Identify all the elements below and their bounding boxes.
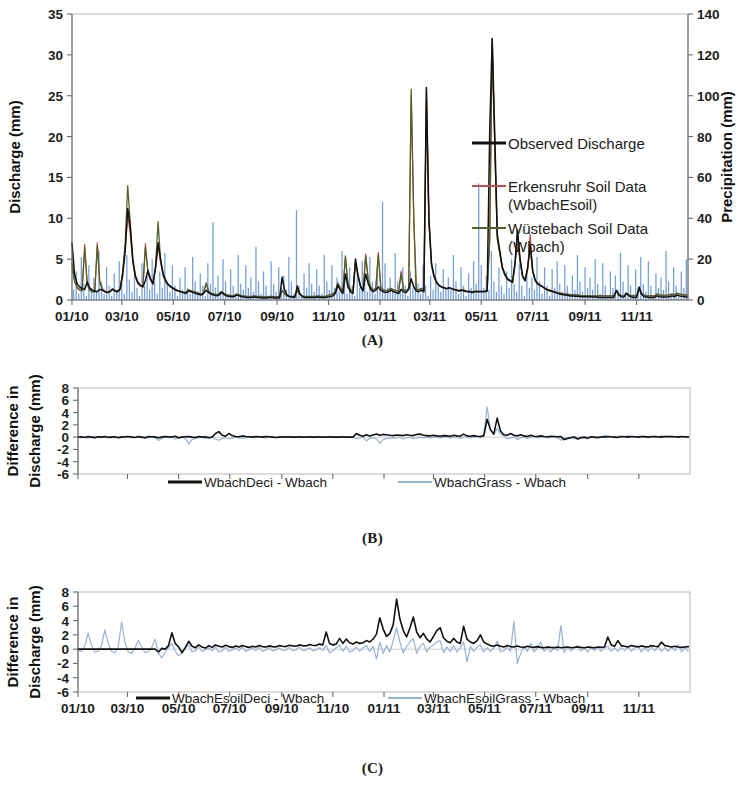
- panel-c-chart: -6-4-20246801/1003/1005/1007/1009/1011/1…: [0, 560, 745, 760]
- plot-area-B: [78, 388, 690, 474]
- legend-label-C: WbachEsoilDeci - Wbach: [172, 691, 324, 706]
- x-ticklabel-a: 09/10: [260, 309, 294, 324]
- y-ticklabel-right-a: 20: [697, 252, 712, 267]
- panel-a: 0510152025303502040608010012014001/1003/…: [0, 0, 745, 362]
- x-ticklabel-a: 11/11: [620, 309, 653, 324]
- x-ticklabel-a: 07/11: [516, 309, 550, 324]
- y-ticklabel-C: -6: [57, 685, 69, 700]
- y-ticklabel-C: -4: [57, 671, 69, 686]
- x-ticklabel-a: 07/10: [208, 309, 242, 324]
- legend-label-a: Wüstebach Soil Data: [508, 220, 649, 237]
- y-ticklabel-right-a: 60: [697, 170, 712, 185]
- x-ticklabel-C: 11/11: [623, 701, 656, 716]
- y-axis-title1-C: Difference in: [4, 597, 21, 688]
- legend-sublabel-a: (Wbach): [508, 238, 565, 255]
- x-ticklabel-C: 03/10: [111, 701, 145, 716]
- legend-label-B: WbachDeci - Wbach: [204, 475, 327, 490]
- series-deci-C: [78, 599, 688, 653]
- legend-label-a: Erkensruhr Soil Data: [508, 178, 647, 195]
- y-ticklabel-left-a: 15: [48, 170, 64, 185]
- y-ticklabel-C: 0: [61, 642, 69, 657]
- panel-a-caption: (A): [0, 332, 745, 349]
- legend-item-a: Erkensruhr Soil Data(WbachEsoil): [472, 178, 647, 213]
- x-ticklabel-a: 09/11: [569, 309, 603, 324]
- y-ticklabel-C: 4: [61, 614, 69, 629]
- legend-label-B: WbachGrass - Wbach: [434, 475, 566, 490]
- y-ticklabel-left-a: 10: [48, 211, 63, 226]
- figure-container: 0510152025303502040608010012014001/1003/…: [0, 0, 745, 792]
- y-axis-title-right-a: Precipitation (mm): [718, 91, 735, 223]
- y-ticklabel-C: -2: [57, 656, 69, 671]
- legend-item-B: WbachDeci - Wbach: [168, 475, 327, 490]
- y-ticklabel-left-a: 5: [55, 252, 63, 267]
- y-ticklabel-left-a: 25: [48, 89, 64, 104]
- y-ticklabel-right-a: 80: [697, 130, 712, 145]
- legend-label-a: Observed Discharge: [508, 135, 645, 152]
- legend-label-C: WbachEsoilGrass - Wbach: [424, 691, 585, 706]
- y-ticklabel-right-a: 40: [697, 211, 712, 226]
- y-ticklabel-C: 6: [61, 599, 69, 614]
- y-axis-title2-C: Discharge (mm): [26, 585, 43, 698]
- y-ticklabel-C: 8: [61, 585, 69, 600]
- y-ticklabel-right-a: 140: [697, 7, 720, 22]
- y-ticklabel-C: 2: [61, 628, 69, 643]
- series-deci-B: [78, 418, 688, 440]
- legend-item-B: WbachGrass - Wbach: [398, 475, 566, 490]
- y-ticklabel-left-a: 0: [55, 293, 63, 308]
- x-ticklabel-a: 11/10: [312, 309, 345, 324]
- x-ticklabel-a: 01/10: [55, 309, 89, 324]
- y-ticklabel-left-a: 30: [48, 48, 63, 63]
- panel-c: -6-4-20246801/1003/1005/1007/1009/1011/1…: [0, 560, 745, 792]
- x-ticklabel-a: 05/10: [156, 309, 190, 324]
- legend-sublabel-a: (WbachEsoil): [508, 196, 597, 213]
- y-ticklabel-left-a: 20: [48, 130, 63, 145]
- x-ticklabel-a: 03/10: [105, 309, 139, 324]
- panel-b: -6-4-202468Difference inDischarge (mm)Wb…: [0, 362, 745, 560]
- y-axis-title2-B: Discharge (mm): [26, 374, 43, 487]
- x-ticklabel-C: 01/11: [367, 701, 401, 716]
- legend-item-a: Observed Discharge: [472, 135, 645, 152]
- y-ticklabel-right-a: 100: [697, 89, 720, 104]
- panel-c-caption: (C): [0, 760, 745, 777]
- y-axis-title-left-a: Discharge (mm): [6, 100, 23, 213]
- x-ticklabel-a: 03/11: [413, 309, 447, 324]
- y-axis-title1-B: Difference in: [4, 386, 21, 477]
- panel-a-chart: 0510152025303502040608010012014001/1003/…: [0, 0, 745, 330]
- x-ticklabel-a: 01/11: [363, 309, 397, 324]
- y-ticklabel-right-a: 0: [697, 293, 705, 308]
- x-ticklabel-a: 05/11: [465, 309, 499, 324]
- panel-b-chart: -6-4-202468Difference inDischarge (mm)Wb…: [0, 362, 745, 527]
- y-ticklabel-left-a: 35: [48, 7, 64, 22]
- y-ticklabel-B: 8: [61, 381, 69, 396]
- y-ticklabel-right-a: 120: [697, 48, 720, 63]
- x-ticklabel-C: 01/10: [61, 701, 95, 716]
- panel-b-caption: (B): [0, 530, 745, 547]
